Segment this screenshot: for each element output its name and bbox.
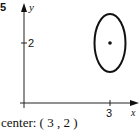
y-tick-label-2: 2 (28, 37, 34, 49)
center-point (108, 41, 112, 45)
x-axis-arrow-icon (130, 100, 139, 106)
y-axis-label: y (28, 1, 34, 13)
ellipse-diagram: y x 2 3 (0, 0, 139, 132)
x-axis-label: x (130, 107, 136, 118)
x-tick-label-3: 3 (106, 107, 112, 119)
y-axis-arrow-icon (21, 3, 27, 12)
center-caption: center: ( 3 , 2 ) (1, 115, 78, 131)
